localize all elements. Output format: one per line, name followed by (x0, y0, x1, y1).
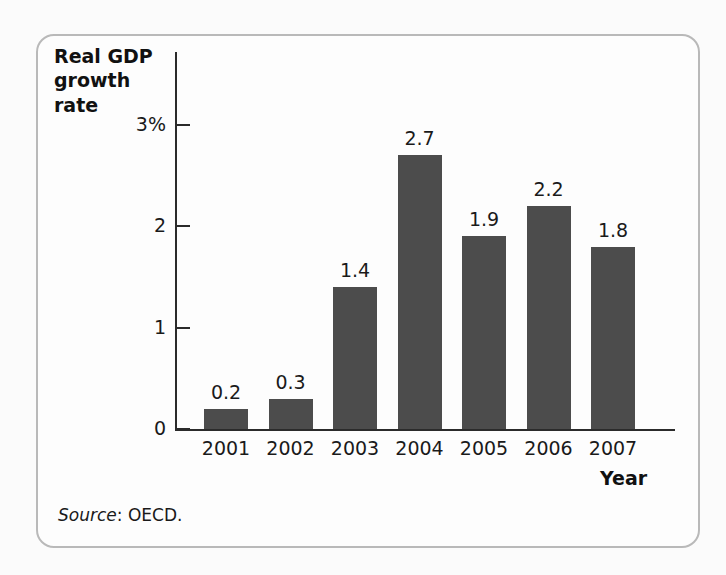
source-label: Source (58, 505, 117, 525)
y-tick-label-1: 1 (0, 316, 166, 338)
bar-2002 (269, 399, 313, 429)
chart-page: 0123% Real GDP growth rate 0.20.31.42.71… (0, 0, 726, 575)
source-separator: : (117, 505, 128, 525)
y-tick-0 (177, 428, 190, 430)
y-tick-label-2: 2 (0, 214, 166, 236)
bar-2007 (591, 247, 635, 429)
bar-value-2005: 1.9 (469, 208, 499, 230)
y-axis-title-line2: growth rate (54, 68, 169, 117)
bar-2004 (398, 155, 442, 429)
bar-2001 (204, 409, 248, 429)
source-note: Source: OECD. (58, 505, 182, 525)
x-tick-label-2004: 2004 (395, 437, 443, 459)
y-tick-label-0: 0 (0, 417, 166, 439)
bar-value-2004: 2.7 (404, 127, 434, 149)
x-tick-label-2001: 2001 (202, 437, 250, 459)
y-tick-3 (177, 124, 190, 126)
bar-value-2001: 0.2 (211, 381, 241, 403)
bar-value-2002: 0.3 (275, 371, 305, 393)
x-tick-label-2003: 2003 (331, 437, 379, 459)
bar-2006 (527, 206, 571, 429)
y-axis-title: Real GDP growth rate (54, 44, 169, 117)
x-axis-title: Year (600, 467, 647, 489)
bar-value-2003: 1.4 (340, 259, 370, 281)
x-tick-label-2005: 2005 (460, 437, 508, 459)
y-axis-line (175, 52, 177, 431)
bar-value-2007: 1.8 (598, 219, 628, 241)
source-value: OECD. (128, 505, 183, 525)
x-axis-line (175, 429, 675, 431)
bar-value-2006: 2.2 (533, 178, 563, 200)
x-tick-label-2006: 2006 (524, 437, 572, 459)
bar-2003 (333, 287, 377, 429)
bar-2005 (462, 236, 506, 429)
x-tick-label-2007: 2007 (589, 437, 637, 459)
y-tick-1 (177, 327, 190, 329)
x-tick-label-2002: 2002 (266, 437, 314, 459)
plot-area: 0123% Real GDP growth rate 0.20.31.42.71… (0, 0, 726, 575)
y-tick-2 (177, 225, 190, 227)
y-axis-title-line1: Real GDP (54, 44, 169, 68)
